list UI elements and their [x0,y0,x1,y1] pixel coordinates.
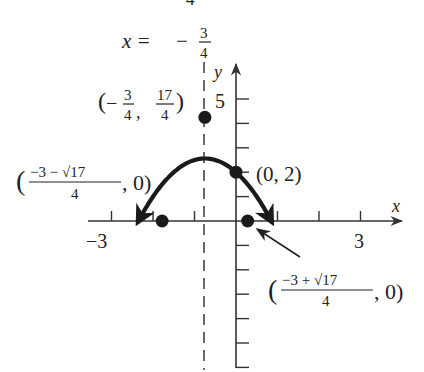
curve-arrow-right [269,217,272,222]
y-ticks [236,99,249,367]
symmetry-label-den: 4 [200,45,208,61]
right-x-intercept-label: ( −3 + √17 4 , 0) [268,272,403,309]
right-x-intercept-point [241,215,254,228]
left-x-intercept-label: ( −3 − √17 4 , 0) [16,164,151,202]
symmetry-label-sign: − [176,29,188,53]
parabola-graph: 4 x = − 3 4 x y −3 3 5 ( − 3 4 , 17 4 ) … [0,0,424,372]
left-intercept-tail: , 0) [122,170,151,195]
curve-arrow-left [138,217,141,222]
vertex-label-x-den: 4 [124,107,132,123]
cropped-digit: 4 [186,0,195,9]
right-intercept-num: −3 + √17 [282,272,338,288]
y-intercept-label: (0, 2) [256,162,302,186]
svg-text:): ) [176,88,184,114]
svg-text:,: , [136,102,141,122]
vertex-label-y-den: 4 [161,107,169,123]
vertex-label-y-num: 17 [157,87,173,103]
symmetry-label-lhs: x = [121,29,151,53]
parabola-curve [139,159,272,221]
svg-text:(: ( [268,274,277,305]
right-intercept-den: 4 [322,293,330,309]
x-tick-label-neg3: −3 [86,230,107,252]
vertex-label-sign: − [106,92,117,114]
pointer-arrow [257,229,300,257]
y-tick-label-5: 5 [215,90,225,112]
svg-text:(: ( [16,165,25,196]
vertex-point [198,111,211,124]
x-axis-label: x [391,196,400,216]
y-axis-label: y [212,62,222,82]
right-intercept-tail: , 0) [374,279,403,304]
symmetry-label-num: 3 [200,25,208,41]
axis-of-symmetry-label: x = − 3 4 [121,25,211,61]
left-x-intercept-point [156,215,169,228]
left-intercept-den: 4 [71,186,79,202]
vertex-label: ( − 3 4 , 17 4 ) [98,87,184,123]
y-intercept-point [230,166,243,179]
svg-text:(: ( [98,88,106,114]
x-tick-label-3: 3 [354,230,364,252]
left-intercept-num: −3 − √17 [30,164,86,180]
vertex-label-x-num: 3 [124,87,132,103]
